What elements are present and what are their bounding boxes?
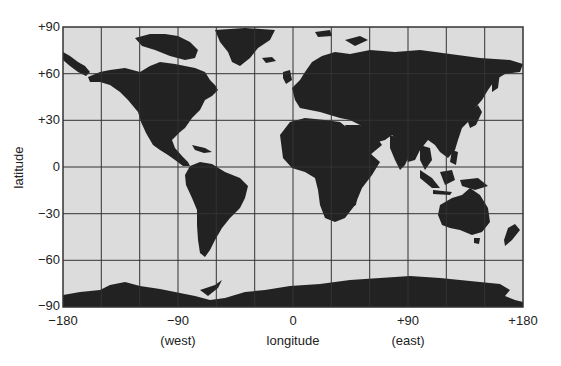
x-tick-label: −180 — [33, 314, 93, 328]
y-tick-label: +30 — [20, 113, 60, 127]
x-tick-label: −90 — [148, 314, 208, 328]
x-tick-label: +180 — [493, 314, 553, 328]
x-tick-label: +90 — [378, 314, 438, 328]
y-tick-label: +90 — [20, 20, 60, 34]
y-axis-label: latitude — [11, 138, 26, 198]
y-tick-label: +60 — [20, 67, 60, 81]
west-label: (west) — [138, 333, 218, 348]
y-tick-label: −30 — [20, 207, 60, 221]
y-tick-label: 0 — [20, 160, 60, 174]
x-tick-label: 0 — [263, 314, 323, 328]
x-axis-label: longitude — [253, 333, 333, 348]
y-tick-label: −60 — [20, 253, 60, 267]
east-label: (east) — [368, 333, 448, 348]
world-map — [0, 0, 561, 366]
y-tick-label: −90 — [20, 299, 60, 313]
tasmania — [474, 238, 480, 244]
